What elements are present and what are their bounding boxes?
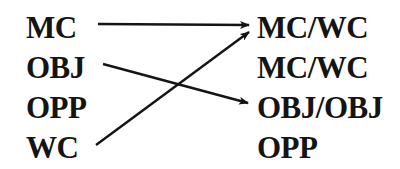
arrow-obj-to-obj-obj: [103, 64, 248, 103]
arrow-wc-to-mc-wc: [96, 32, 249, 145]
arrow-mc-to-mc-wc: [98, 24, 249, 25]
mapping-arrows: [0, 0, 400, 169]
